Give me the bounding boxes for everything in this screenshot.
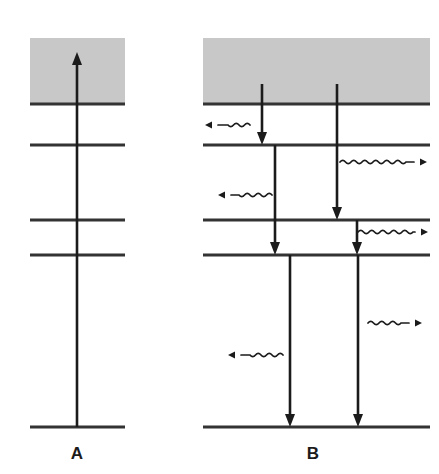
energy-level-figure: A B xyxy=(0,0,439,474)
panel-b-label: B xyxy=(307,444,319,463)
panel-a-label: A xyxy=(71,444,83,463)
energy-level-diagram: A B xyxy=(0,0,439,474)
continuum-band xyxy=(203,38,430,104)
